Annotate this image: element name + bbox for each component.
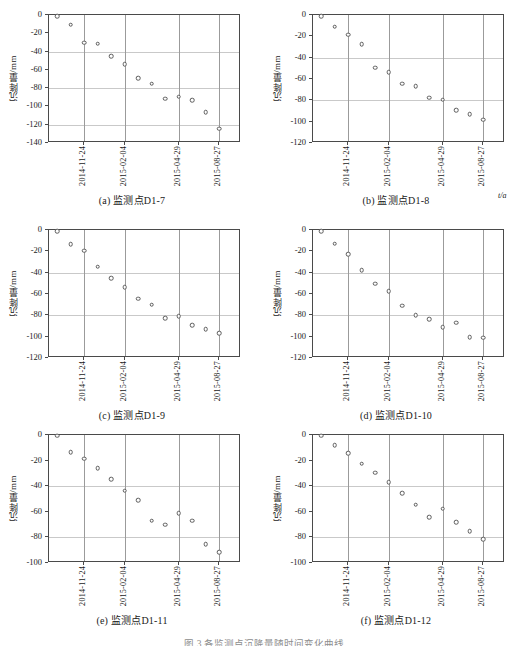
y-tick-label: -100 <box>26 100 42 110</box>
gridline-horizontal <box>313 100 503 101</box>
gridline-vertical <box>219 15 220 141</box>
x-tick-label: 2014-11-24 <box>342 146 351 186</box>
x-tick-label: 2014-11-24 <box>78 361 87 401</box>
x-tick-mark <box>388 142 389 145</box>
x-tick-mark <box>218 562 219 565</box>
data-point <box>204 110 209 115</box>
data-point <box>109 477 114 482</box>
y-tick-mark <box>309 229 312 230</box>
y-axis-label: 沉降量/mm <box>270 442 283 554</box>
data-point <box>468 112 473 117</box>
y-tick-mark <box>45 51 48 52</box>
y-tick-label: -100 <box>26 557 42 567</box>
x-tick-label: 2015-04-29 <box>437 566 446 606</box>
data-point <box>427 317 432 322</box>
gridline-vertical <box>219 230 220 356</box>
y-tick-mark <box>309 121 312 122</box>
y-tick-mark <box>45 142 48 143</box>
y-tick-mark <box>309 336 312 337</box>
y-tick-mark <box>45 69 48 70</box>
y-tick-label: 0 <box>38 9 42 19</box>
y-tick-label: -120 <box>290 137 306 147</box>
y-tick-label: -60 <box>31 64 42 74</box>
x-tick-mark <box>83 562 84 565</box>
gridline-vertical <box>483 435 484 561</box>
x-tick-mark <box>347 357 348 360</box>
y-tick-label: -120 <box>290 352 306 362</box>
gridline-vertical <box>179 15 180 141</box>
y-tick-mark <box>309 99 312 100</box>
y-tick-mark <box>45 511 48 512</box>
y-tick-label: -60 <box>295 506 306 516</box>
gridline-horizontal <box>49 88 239 89</box>
y-tick-label: -40 <box>31 480 42 490</box>
gridline-vertical <box>125 15 126 141</box>
y-tick-label: -80 <box>31 309 42 319</box>
y-tick-mark <box>45 314 48 315</box>
y-tick-label: -140 <box>26 137 42 147</box>
y-tick-label: 0 <box>38 224 42 234</box>
y-axis-label: 沉降量/mm <box>270 22 283 134</box>
x-tick-mark <box>388 562 389 565</box>
y-tick-label: 0 <box>302 429 306 439</box>
gridline-horizontal <box>49 273 239 274</box>
y-tick-label: -120 <box>26 119 42 129</box>
gridline-vertical <box>348 230 349 356</box>
y-tick-label: 0 <box>302 224 306 234</box>
plot-area <box>312 434 504 562</box>
x-tick-label: 2015-02-04 <box>119 566 128 606</box>
y-axis-label: 沉降量/mm <box>270 237 283 349</box>
subplot-caption-a: (a) 监测点D1-7 <box>0 192 264 207</box>
gridline-vertical <box>443 435 444 561</box>
data-point <box>319 229 324 234</box>
y-tick-label: -60 <box>31 506 42 516</box>
subplot-caption-f: (f) 监测点D1-12 <box>264 612 528 627</box>
data-point <box>177 314 182 319</box>
x-tick-mark <box>83 357 84 360</box>
data-point <box>136 76 141 81</box>
x-tick-mark <box>83 142 84 145</box>
y-tick-mark <box>45 336 48 337</box>
y-tick-mark <box>309 485 312 486</box>
data-point <box>441 325 446 330</box>
data-point <box>373 470 378 475</box>
x-tick-label: 2015-08-27 <box>477 361 486 401</box>
unit-label-ta: t/a <box>498 191 506 200</box>
gridline-vertical <box>125 435 126 561</box>
data-point <box>400 303 405 308</box>
data-point <box>217 550 222 555</box>
data-point <box>122 62 127 67</box>
data-point <box>204 542 209 547</box>
data-point <box>82 456 87 461</box>
data-point <box>163 522 168 527</box>
data-point <box>386 289 391 294</box>
data-point <box>177 511 182 516</box>
data-point <box>359 462 364 467</box>
data-point <box>82 249 87 254</box>
data-point <box>163 96 168 101</box>
x-tick-label: 2015-02-04 <box>383 146 392 186</box>
gridline-horizontal <box>313 58 503 59</box>
data-point <box>55 433 60 438</box>
gridline-vertical <box>84 15 85 141</box>
x-tick-label: 2015-04-29 <box>173 566 182 606</box>
y-tick-mark <box>45 460 48 461</box>
y-tick-mark <box>309 142 312 143</box>
data-point <box>55 14 60 19</box>
data-point <box>386 480 391 485</box>
data-point <box>149 518 154 523</box>
x-tick-mark <box>124 142 125 145</box>
y-tick-label: -20 <box>31 455 42 465</box>
x-tick-mark <box>124 357 125 360</box>
y-tick-mark <box>45 272 48 273</box>
gridline-vertical <box>179 230 180 356</box>
gridline-horizontal <box>49 315 239 316</box>
data-point <box>427 95 432 100</box>
x-tick-mark <box>218 357 219 360</box>
y-tick-label: -40 <box>295 267 306 277</box>
data-point <box>217 331 222 336</box>
y-axis-label: 沉降量/mm <box>6 237 19 349</box>
data-point <box>319 433 324 438</box>
y-tick-label: -20 <box>295 455 306 465</box>
x-tick-label: 2014-11-24 <box>78 566 87 606</box>
